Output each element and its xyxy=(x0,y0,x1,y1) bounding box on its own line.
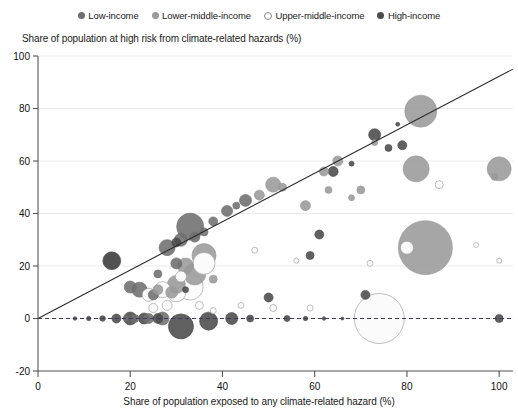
bubble-marker[interactable] xyxy=(209,275,217,283)
bubble-marker[interactable] xyxy=(222,205,233,216)
x-tick-label: 40 xyxy=(217,381,229,392)
bubble-marker[interactable] xyxy=(385,144,392,151)
y-tick-label: 100 xyxy=(13,51,30,62)
bubble-marker[interactable] xyxy=(349,195,355,201)
bubble-marker[interactable] xyxy=(328,167,338,177)
y-tick-label: 40 xyxy=(19,208,31,219)
bubble-marker[interactable] xyxy=(238,302,244,308)
y-tickmarks xyxy=(33,56,38,371)
trend-line xyxy=(38,69,513,318)
bubble-marker[interactable] xyxy=(306,252,314,260)
bubble-marker[interactable] xyxy=(168,314,193,339)
x-axis-title: Share of population exposed to any clima… xyxy=(0,396,518,407)
bubble-marker[interactable] xyxy=(195,301,203,309)
bubble-marker[interactable] xyxy=(153,285,163,295)
bubble-marker[interactable] xyxy=(171,258,182,269)
bubble-marker[interactable] xyxy=(403,156,429,182)
bubble-marker[interactable] xyxy=(162,300,172,310)
bubble-marker[interactable] xyxy=(315,230,324,239)
bubble-marker[interactable] xyxy=(367,260,373,266)
bubble-markers xyxy=(73,95,511,343)
bubble-marker[interactable] xyxy=(124,281,136,293)
bubble-marker[interactable] xyxy=(349,161,354,166)
bubble-marker[interactable] xyxy=(254,190,264,200)
bubble-marker[interactable] xyxy=(435,181,443,189)
bubble-marker[interactable] xyxy=(233,202,240,209)
bubble-marker[interactable] xyxy=(175,271,186,282)
bubble-marker[interactable] xyxy=(396,122,400,126)
bubble-marker[interactable] xyxy=(166,286,178,298)
bubble-marker[interactable] xyxy=(474,243,479,248)
bubble-marker[interactable] xyxy=(300,201,310,211)
bubble-marker[interactable] xyxy=(200,312,218,330)
x-tickmarks xyxy=(38,371,499,377)
bubble-marker[interactable] xyxy=(307,305,313,311)
y-tick-label: 60 xyxy=(19,156,31,167)
bubble-marker[interactable] xyxy=(325,186,332,193)
reference-lines xyxy=(38,69,513,318)
bubble-marker[interactable] xyxy=(183,287,189,293)
bubble-marker[interactable] xyxy=(210,308,216,314)
y-tick-label: 20 xyxy=(19,261,31,272)
y-tick-label: -20 xyxy=(16,366,31,377)
bubble-marker[interactable] xyxy=(491,173,498,180)
bubble-marker[interactable] xyxy=(294,258,299,263)
bubble-marker[interactable] xyxy=(398,141,407,150)
x-tick-label: 60 xyxy=(309,381,321,392)
bubble-marker[interactable] xyxy=(252,247,258,253)
x-tick-label: 80 xyxy=(401,381,413,392)
bubble-marker[interactable] xyxy=(154,270,162,278)
x-tick-label: 0 xyxy=(35,381,41,392)
y-tick-labels: 100806040200-20 xyxy=(13,51,30,377)
bubble-marker[interactable] xyxy=(193,252,215,274)
bubble-marker[interactable] xyxy=(103,252,120,269)
bubble-marker[interactable] xyxy=(357,186,365,194)
bubble-marker[interactable] xyxy=(497,258,502,263)
x-tick-labels: 020406080100 xyxy=(35,381,508,392)
x-tick-label: 20 xyxy=(125,381,137,392)
bubble-marker[interactable] xyxy=(266,177,281,192)
bubble-marker[interactable] xyxy=(149,304,158,313)
bubble-marker[interactable] xyxy=(361,290,370,299)
bubble-marker[interactable] xyxy=(264,293,273,302)
bubble-marker[interactable] xyxy=(270,305,277,312)
y-tick-label: 80 xyxy=(19,103,31,114)
y-tick-label: 0 xyxy=(24,313,30,324)
bubble-marker[interactable] xyxy=(190,232,200,242)
bubble-marker[interactable] xyxy=(240,194,252,206)
bubble-chart-figure: Low-income Lower-middle-income Upper-mid… xyxy=(0,0,518,415)
bubble-marker[interactable] xyxy=(400,241,413,254)
plot-area: 100806040200-20 020406080100 xyxy=(0,0,518,415)
x-tick-label: 100 xyxy=(491,381,508,392)
